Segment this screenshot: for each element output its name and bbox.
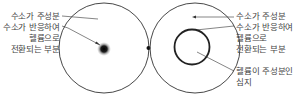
left-star xyxy=(59,3,149,93)
right-label-conversion-line3: 전환되는 부분 xyxy=(236,44,285,55)
right-label-helium-core-line2: 심지 xyxy=(236,77,252,88)
left-label-conversion-line1: 수소가 반응하여 xyxy=(3,22,60,33)
arrowhead-icon xyxy=(192,16,196,19)
left-leader-hydrogen xyxy=(62,16,98,19)
left-leader-conversion xyxy=(62,26,100,45)
right-label-helium-core-line1: 헬륨이 주성분인 xyxy=(236,66,293,77)
left-label-conversion-line3: 전환되는 부분 xyxy=(11,44,60,55)
right-leader-conversion xyxy=(196,26,234,30)
right-star xyxy=(150,3,240,93)
left-label-conversion-line2: 헬륨으로 xyxy=(29,33,60,44)
right-label-conversion-line2: 헬륨으로 xyxy=(236,33,267,44)
stellar-evolution-diagram: 수소가 주성분 수소가 반응하여 헬륨으로 전환되는 부분 수소가 주성분 수소… xyxy=(0,0,297,98)
right-star-shell xyxy=(175,30,210,65)
right-label-conversion-line1: 수소가 반응하여 xyxy=(236,22,293,33)
left-label-hydrogen-main: 수소가 주성분 xyxy=(11,11,60,22)
arrowhead-icon xyxy=(95,42,100,46)
right-label-hydrogen-main: 수소가 주성분 xyxy=(236,11,285,22)
